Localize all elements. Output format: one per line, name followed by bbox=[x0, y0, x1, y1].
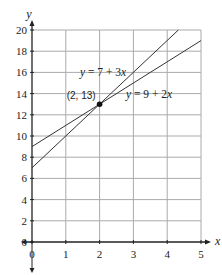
chart: 01234502468101214161820yxy = 7 + 3xy = 9… bbox=[0, 0, 222, 275]
y-tick-label: 16 bbox=[16, 66, 28, 78]
equation-label-2: y = 9 + 2x bbox=[125, 88, 173, 101]
x-tick-label: 4 bbox=[164, 248, 170, 260]
y-tick-label: 10 bbox=[16, 130, 28, 142]
y-tick-label: 2 bbox=[22, 215, 28, 227]
x-axis-arrow-icon bbox=[205, 240, 211, 245]
y-tick-label: 20 bbox=[16, 24, 28, 36]
intersection-label: (2, 13) bbox=[67, 90, 96, 101]
y-tick-label: 8 bbox=[22, 151, 28, 163]
y-axis-neg-arrow-icon bbox=[30, 268, 35, 273]
y-tick-label: 0 bbox=[22, 236, 28, 248]
x-axis-label: x bbox=[214, 234, 221, 248]
y-axis-label: y bbox=[25, 7, 32, 21]
intersection-point-icon bbox=[97, 101, 103, 107]
y-tick-label: 18 bbox=[16, 45, 28, 57]
y-tick-label: 6 bbox=[22, 172, 28, 184]
x-tick-label: 0 bbox=[29, 248, 35, 260]
x-tick-label: 1 bbox=[63, 248, 69, 260]
y-tick-label: 4 bbox=[22, 194, 28, 206]
equation-label-1: y = 7 + 3x bbox=[79, 66, 127, 79]
x-tick-label: 5 bbox=[198, 248, 204, 260]
x-tick-label: 2 bbox=[97, 248, 103, 260]
y-tick-label: 12 bbox=[16, 109, 27, 121]
y-tick-label: 14 bbox=[16, 88, 28, 100]
x-tick-label: 3 bbox=[131, 248, 137, 260]
